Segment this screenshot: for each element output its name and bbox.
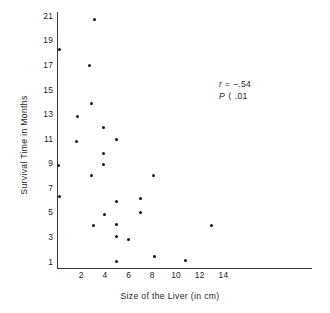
x-axis-tick-label: 12 bbox=[190, 270, 210, 280]
x-axis-line bbox=[57, 268, 312, 269]
y-axis-tick-label: 7 bbox=[31, 183, 53, 193]
data-point bbox=[184, 259, 187, 262]
y-axis-tick-9: 9 bbox=[28, 158, 53, 168]
data-point bbox=[115, 235, 118, 238]
data-point bbox=[139, 197, 142, 200]
data-point bbox=[139, 211, 142, 214]
y-axis-tick-label: 3 bbox=[31, 232, 53, 242]
y-axis-tick-7: 7 bbox=[28, 183, 53, 193]
data-point bbox=[102, 126, 105, 129]
statistics-annotation: r = −.54 P ⟨ .01 bbox=[219, 79, 251, 102]
correlation-value: = −.54 bbox=[225, 79, 251, 89]
data-point bbox=[75, 140, 78, 143]
x-axis-tick-label: 4 bbox=[95, 270, 115, 280]
data-point bbox=[115, 260, 118, 263]
y-axis-tick-17: 17 bbox=[28, 60, 53, 70]
data-point bbox=[92, 224, 95, 227]
x-axis-tick-4: 4 bbox=[95, 270, 115, 281]
data-point bbox=[90, 174, 93, 177]
y-axis-tick-label: 9 bbox=[31, 158, 53, 168]
y-axis-tick-15: 15 bbox=[28, 85, 53, 95]
data-point bbox=[90, 102, 93, 105]
y-axis-tick-label: 11 bbox=[31, 134, 53, 144]
correlation-symbol: r bbox=[219, 79, 222, 89]
y-axis-tick-21: 21 bbox=[28, 11, 53, 21]
x-axis-tick-8: 8 bbox=[142, 270, 162, 281]
data-point bbox=[102, 152, 105, 155]
y-axis-tick-label: 17 bbox=[31, 60, 53, 70]
y-axis-tick-19: 19 bbox=[28, 35, 53, 45]
y-axis-tick-11: 11 bbox=[28, 134, 53, 144]
y-axis-title: Survival Time in Months bbox=[19, 45, 29, 245]
data-point bbox=[102, 163, 105, 166]
y-axis-tick-13: 13 bbox=[28, 109, 53, 119]
data-point bbox=[76, 115, 79, 118]
x-axis-tick-label: 6 bbox=[119, 270, 139, 280]
scatter-plot-figure: 135791113151719212468101214 Survival Tim… bbox=[0, 0, 330, 313]
y-axis-tick-label: 13 bbox=[31, 109, 53, 119]
pvalue-annotation: P ⟨ .01 bbox=[219, 91, 251, 103]
data-point bbox=[57, 164, 60, 167]
x-axis-tick-label: 2 bbox=[71, 270, 91, 280]
data-point bbox=[93, 18, 96, 21]
data-point bbox=[152, 174, 155, 177]
x-axis-tick-label: 10 bbox=[166, 270, 186, 280]
x-axis-tick-label: 14 bbox=[213, 270, 233, 280]
plot-area: 135791113151719212468101214 bbox=[0, 0, 330, 313]
x-axis-tick-label: 8 bbox=[142, 270, 162, 280]
y-axis-tick-label: 21 bbox=[31, 11, 53, 21]
data-point bbox=[115, 200, 118, 203]
x-axis-tick-12: 12 bbox=[190, 270, 210, 281]
data-point bbox=[115, 223, 118, 226]
x-axis-title: Size of the Liver (in cm) bbox=[40, 291, 300, 301]
y-axis-tick-label: 5 bbox=[31, 207, 53, 217]
y-axis-tick-5: 5 bbox=[28, 207, 53, 217]
x-axis-tick-10: 10 bbox=[166, 270, 186, 281]
y-axis-tick-label: 1 bbox=[31, 257, 53, 267]
pvalue-symbol: P bbox=[219, 91, 225, 101]
data-point bbox=[88, 64, 91, 67]
x-axis-tick-2: 2 bbox=[71, 270, 91, 281]
correlation-annotation: r = −.54 bbox=[219, 79, 251, 91]
y-axis-tick-3: 3 bbox=[28, 232, 53, 242]
y-axis-tick-label: 15 bbox=[31, 85, 53, 95]
data-point bbox=[127, 238, 130, 241]
y-axis-tick-label: 19 bbox=[31, 35, 53, 45]
data-point bbox=[210, 224, 213, 227]
y-axis-tick-1: 1 bbox=[28, 257, 53, 267]
data-point bbox=[58, 48, 61, 51]
pvalue-value: ⟨ .01 bbox=[228, 91, 248, 101]
data-point bbox=[103, 213, 106, 216]
data-point bbox=[58, 195, 61, 198]
data-point bbox=[115, 138, 118, 141]
x-axis-tick-6: 6 bbox=[119, 270, 139, 281]
x-axis-tick-14: 14 bbox=[213, 270, 233, 281]
data-point bbox=[153, 255, 156, 258]
